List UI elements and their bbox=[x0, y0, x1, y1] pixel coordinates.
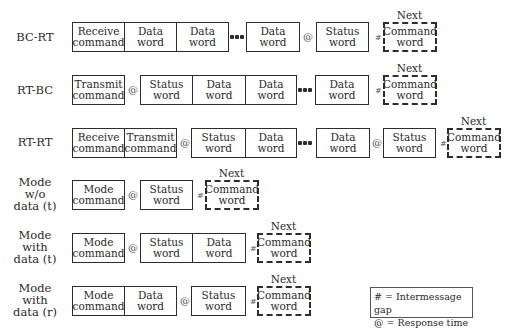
intermessage-gap-symbol: # bbox=[375, 86, 382, 95]
next-label: Next bbox=[257, 220, 310, 232]
box-text: word bbox=[149, 248, 183, 260]
label-line: data (r) bbox=[0, 306, 70, 318]
intermessage-gap-symbol: # bbox=[375, 33, 382, 42]
intermessage-gap-symbol: # bbox=[197, 191, 204, 200]
data-word: Dataword bbox=[124, 22, 177, 52]
box-text: word bbox=[189, 37, 216, 49]
data-word: Dataword bbox=[192, 233, 246, 263]
ellipsis-icon bbox=[230, 35, 244, 39]
next-label: Next bbox=[383, 62, 436, 74]
response-time-symbol: @ bbox=[303, 31, 313, 42]
response-time-symbol: @ bbox=[372, 137, 382, 148]
mil-std-1553-message-formats-diagram: BC-RT Receivecommand Dataword Dataword D… bbox=[0, 0, 522, 335]
transmit-command-word: Transmitcommand bbox=[72, 75, 125, 105]
next-command-word: Commandword bbox=[447, 128, 501, 158]
receive-command-word: Receivecommand bbox=[72, 128, 125, 158]
status-word: Statusword bbox=[383, 128, 436, 158]
status-word: Statusword bbox=[191, 128, 246, 158]
intermessage-gap-symbol: # bbox=[250, 244, 257, 253]
response-time-symbol: @ bbox=[180, 295, 190, 306]
legend: # = Intermessage gap @ = Response time bbox=[370, 287, 473, 318]
box-text: word bbox=[201, 143, 235, 155]
intermessage-gap-symbol: # bbox=[250, 297, 257, 306]
ellipsis-icon bbox=[298, 141, 312, 145]
data-word: Dataword bbox=[316, 128, 370, 158]
next-label: Next bbox=[447, 115, 500, 127]
data-word: Dataword bbox=[246, 22, 300, 52]
data-word: Dataword bbox=[245, 128, 297, 158]
next-command-word: Commandword bbox=[257, 233, 311, 263]
box-text: word bbox=[257, 301, 311, 313]
data-word: Dataword bbox=[315, 75, 369, 105]
status-word: Statusword bbox=[140, 180, 193, 210]
label-line: data (t) bbox=[0, 253, 70, 265]
row-label-rt-rt: RT-RT bbox=[0, 136, 70, 148]
box-text: word bbox=[383, 37, 437, 49]
box-text: word bbox=[149, 90, 183, 102]
next-command-word: Commandword bbox=[205, 180, 259, 210]
data-word: Dataword bbox=[192, 75, 246, 105]
next-command-word: Commandword bbox=[257, 286, 311, 316]
transmit-command-word: Transmitcommand bbox=[124, 128, 177, 158]
mode-command-word: Modecommand bbox=[72, 233, 125, 263]
box-text: word bbox=[137, 37, 164, 49]
status-word: Statusword bbox=[140, 75, 193, 105]
row-label-bc-rt: BC-RT bbox=[0, 31, 70, 43]
box-text: word bbox=[329, 143, 356, 155]
response-time-symbol: @ bbox=[128, 84, 138, 95]
intermessage-gap-symbol: # bbox=[440, 139, 447, 148]
box-text: word bbox=[201, 301, 235, 313]
response-time-symbol: @ bbox=[180, 137, 190, 148]
box-text: word bbox=[205, 195, 259, 207]
box-text: command bbox=[73, 248, 125, 260]
ellipsis-icon bbox=[298, 88, 312, 92]
box-text: word bbox=[205, 248, 232, 260]
status-word: Statusword bbox=[191, 286, 246, 316]
response-time-symbol: @ bbox=[128, 242, 138, 253]
legend-gap: # = Intermessage gap bbox=[374, 290, 469, 316]
box-text: command bbox=[73, 90, 125, 102]
box-text: command bbox=[73, 37, 125, 49]
box-text: word bbox=[447, 143, 501, 155]
row-label-mode-with-data-r: Modewithdata (r) bbox=[0, 282, 70, 318]
box-text: word bbox=[392, 143, 426, 155]
data-word: Dataword bbox=[245, 75, 297, 105]
row-label-mode-with-data-t: Modewithdata (t) bbox=[0, 229, 70, 265]
box-text: word bbox=[149, 195, 183, 207]
box-text: command bbox=[125, 143, 177, 155]
box-text: word bbox=[257, 143, 284, 155]
next-label: Next bbox=[257, 273, 310, 285]
receive-command-word: Receivecommand bbox=[72, 22, 125, 52]
legend-response: @ = Response time bbox=[374, 316, 469, 329]
response-time-symbol: @ bbox=[128, 189, 138, 200]
label-line: data (t) bbox=[0, 200, 70, 212]
next-command-word: Commandword bbox=[383, 75, 437, 105]
next-label: Next bbox=[383, 9, 436, 21]
box-text: word bbox=[383, 90, 437, 102]
box-text: word bbox=[257, 248, 311, 260]
box-text: word bbox=[137, 301, 164, 313]
box-text: word bbox=[325, 37, 359, 49]
mode-command-word: Modecommand bbox=[72, 286, 125, 316]
mode-command-word: Modecommand bbox=[72, 180, 125, 210]
next-label: Next bbox=[205, 167, 258, 179]
box-text: word bbox=[328, 90, 355, 102]
status-word: Statusword bbox=[140, 233, 193, 263]
next-command-word: Commandword bbox=[383, 22, 437, 52]
box-text: command bbox=[73, 195, 125, 207]
box-text: word bbox=[205, 90, 232, 102]
box-text: word bbox=[259, 37, 286, 49]
box-text: command bbox=[73, 143, 125, 155]
data-word: Dataword bbox=[124, 286, 177, 316]
status-word: Statusword bbox=[316, 22, 369, 52]
box-text: command bbox=[73, 301, 125, 313]
box-text: word bbox=[257, 90, 284, 102]
data-word: Dataword bbox=[176, 22, 229, 52]
row-label-rt-bc: RT-BC bbox=[0, 84, 70, 96]
row-label-mode-without-data-t: Modew/odata (t) bbox=[0, 176, 70, 212]
